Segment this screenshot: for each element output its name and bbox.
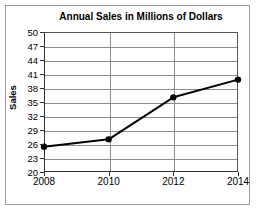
x-tick-mark [238,172,239,176]
chart-title: Annual Sales in Millions of Dollars [44,11,238,22]
chart-figure: Annual Sales in Millions of Dollars Sale… [0,0,256,211]
y-tick-mark [40,116,44,117]
y-tick-label: 41 [14,69,38,80]
x-tick-mark [44,172,45,176]
x-tick-label: 2014 [215,176,256,187]
x-tick-mark [109,172,110,176]
y-tick-mark [40,32,44,33]
series-line [44,80,238,147]
x-tick-label: 2012 [150,176,196,187]
x-tick-mark [173,172,174,176]
y-tick-label: 23 [14,153,38,164]
y-tick-mark [40,60,44,61]
data-point-marker [170,94,176,100]
y-tick-label: 29 [14,125,38,136]
y-tick-mark [40,102,44,103]
y-tick-mark [40,144,44,145]
y-tick-mark [40,46,44,47]
y-tick-label: 47 [14,41,38,52]
y-tick-mark [40,158,44,159]
y-tick-label: 35 [14,97,38,108]
x-tick-label: 2008 [21,176,67,187]
y-tick-mark [40,130,44,131]
y-tick-mark [40,88,44,89]
y-tick-label: 44 [14,55,38,66]
data-point-marker [235,76,241,82]
line-series-sales [44,32,238,172]
data-point-marker [105,136,111,142]
y-tick-label: 26 [14,139,38,150]
y-tick-label: 32 [14,111,38,122]
y-tick-label: 50 [14,27,38,38]
y-tick-label: 38 [14,83,38,94]
x-tick-label: 2010 [86,176,132,187]
y-tick-mark [40,74,44,75]
